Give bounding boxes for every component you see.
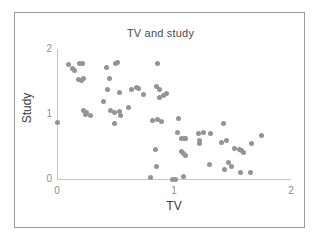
scatter-point — [181, 174, 186, 179]
scatter-point — [197, 141, 202, 146]
scatter-point — [176, 116, 181, 121]
scatter-point — [136, 86, 141, 91]
scatter-point — [126, 105, 131, 110]
scatter-point — [81, 76, 86, 81]
scatter-point — [208, 131, 213, 136]
plot-area: TV and study Study TV 012 012 — [15, 13, 306, 229]
scatter-point — [238, 170, 243, 175]
scatter-point — [105, 87, 110, 92]
scatter-point — [112, 121, 117, 126]
scatter-point — [88, 113, 93, 118]
scatter-point — [118, 113, 123, 118]
scatter-point — [104, 65, 109, 70]
scatter-point — [155, 61, 160, 66]
scatter-point — [221, 121, 226, 126]
scatter-point — [115, 60, 120, 65]
figure-frame: TV and study Study TV 012 012 — [14, 12, 305, 228]
scatter-point — [183, 153, 188, 158]
scatter-point — [72, 68, 77, 73]
scatter-point — [249, 141, 254, 146]
scatter-point — [107, 76, 112, 81]
scatter-point — [201, 130, 206, 135]
scatter-point — [159, 119, 164, 124]
scatter-point — [175, 130, 180, 135]
scatter-point — [117, 90, 122, 95]
scatter-point — [80, 61, 85, 66]
scatter-point — [222, 167, 227, 172]
scatter-point — [173, 177, 178, 182]
scatter-point — [154, 164, 159, 169]
scatter-point — [183, 136, 188, 141]
scatter-point — [101, 99, 106, 104]
scatter-point — [141, 92, 146, 97]
scatter-point — [224, 138, 229, 143]
scatter-point — [153, 147, 158, 152]
scatter-point — [164, 91, 169, 96]
scatter-point — [157, 87, 162, 92]
screenshot-root: TV and study Study TV 012 012 — [0, 0, 319, 242]
scatter-points-layer — [15, 13, 306, 229]
scatter-point — [207, 162, 212, 167]
scatter-point — [229, 164, 234, 169]
scatter-point — [55, 120, 60, 125]
scatter-point — [248, 170, 253, 175]
scatter-point — [259, 133, 264, 138]
scatter-point — [148, 175, 153, 180]
scatter-point — [241, 150, 246, 155]
